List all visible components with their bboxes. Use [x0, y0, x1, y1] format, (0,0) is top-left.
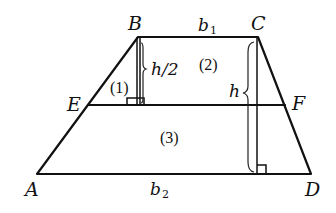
label-b: B	[127, 12, 142, 34]
label-half-height: h/2	[151, 59, 179, 79]
label-c: C	[251, 12, 266, 34]
trapezoid-diagram: B C E F A D b 1 b 2 h/2 h (1) (2) (3)	[0, 0, 336, 213]
label-b2-sub: 2	[162, 188, 169, 201]
label-d: D	[304, 178, 320, 200]
label-height: h	[229, 81, 240, 101]
label-b1-sub: 1	[210, 24, 217, 37]
half-height-brace	[141, 43, 146, 103]
label-region-3: (3)	[160, 129, 179, 147]
label-b2: b	[150, 179, 161, 199]
label-b1: b	[198, 15, 209, 35]
height-brace	[243, 42, 254, 172]
label-f: F	[291, 92, 306, 114]
label-e: E	[66, 93, 81, 115]
label-a: A	[23, 178, 39, 200]
label-region-2: (2)	[199, 56, 218, 74]
right-angle-marker-ad	[257, 165, 266, 174]
label-region-1: (1)	[110, 79, 129, 97]
